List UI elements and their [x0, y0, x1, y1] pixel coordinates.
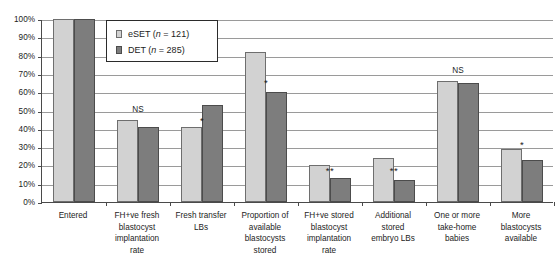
y-tick-label: 0%	[0, 199, 35, 207]
gridline	[42, 75, 553, 76]
x-tick-mark	[362, 202, 363, 206]
legend-item: DET (n = 285)	[116, 42, 217, 58]
x-label-line: More	[484, 210, 558, 222]
y-tick-mark	[38, 203, 42, 204]
y-tick-label: 80%	[0, 52, 35, 60]
x-category-label: Additionalstoredembryo LBs	[356, 210, 430, 245]
y-tick-mark	[38, 112, 42, 113]
bar-eset	[245, 52, 266, 202]
x-label-line: take-home	[420, 222, 494, 234]
x-label-line: implantation	[292, 233, 366, 245]
x-label-line: Proportion of	[228, 210, 302, 222]
bar-det	[74, 19, 95, 202]
x-label-line: Fresh transfer	[164, 210, 238, 222]
x-tick-mark	[170, 202, 171, 206]
x-label-line: blastocyst	[100, 222, 174, 234]
x-category-label: One or moretake-homebabies	[420, 210, 494, 245]
y-tick-mark	[38, 130, 42, 131]
x-tick-mark	[234, 202, 235, 206]
bar-det	[330, 178, 351, 202]
bar-det	[394, 180, 415, 202]
y-tick-label: 70%	[0, 71, 35, 79]
bar-eset	[117, 120, 138, 202]
y-tick-label: 40%	[0, 126, 35, 134]
x-label-line: blastocysts	[228, 233, 302, 245]
y-tick-mark	[38, 38, 42, 39]
y-tick-label: 60%	[0, 89, 35, 97]
y-tick-mark	[38, 57, 42, 58]
x-label-line: implantation	[100, 233, 174, 245]
y-tick-label: 50%	[0, 107, 35, 115]
x-label-line: rate	[100, 245, 174, 257]
y-tick-label: 90%	[0, 34, 35, 42]
y-tick-mark	[38, 20, 42, 21]
significance-annotation: NS	[132, 106, 143, 114]
x-category-label: Fresh transferLBs	[164, 210, 238, 233]
x-tick-mark	[490, 202, 491, 206]
bar-eset	[181, 127, 202, 202]
x-label-line: babies	[420, 233, 494, 245]
x-label-line: FH+ve stored	[292, 210, 366, 222]
x-label-line: Additional	[356, 210, 430, 222]
y-tick-label: 30%	[0, 144, 35, 152]
y-tick-label: 20%	[0, 162, 35, 170]
legend-swatch-eset	[116, 30, 122, 38]
bar-det	[266, 92, 287, 202]
chart-legend: eSET (n = 121)DET (n = 285)	[106, 20, 218, 62]
bar-det	[458, 83, 479, 202]
significance-annotation: **	[326, 166, 334, 176]
bar-chart: NS******NS* 100%90%80%70%60%50%40%30%20%…	[0, 0, 558, 270]
x-label-line: stored	[228, 245, 302, 257]
x-label-line: embryo LBs	[356, 233, 430, 245]
x-label-line: One or more	[420, 210, 494, 222]
bar-det	[138, 127, 159, 202]
y-tick-mark	[38, 148, 42, 149]
significance-annotation: NS	[452, 67, 463, 75]
bar-det	[522, 160, 543, 202]
significance-annotation: **	[390, 166, 398, 176]
x-category-label: FH+ve storedblastocystimplantationrate	[292, 210, 366, 256]
x-label-line: available	[484, 233, 558, 245]
y-tick-mark	[38, 185, 42, 186]
x-tick-mark	[106, 202, 107, 206]
significance-annotation: *	[200, 116, 204, 126]
x-category-label: Entered	[36, 210, 110, 222]
x-tick-mark	[426, 202, 427, 206]
x-label-line: blastocyst	[292, 222, 366, 234]
x-label-line: stored	[356, 222, 430, 234]
x-label-line: FH+ve fresh	[100, 210, 174, 222]
significance-annotation: *	[520, 140, 524, 150]
x-category-label: Proportion ofavailableblastocystsstored	[228, 210, 302, 256]
legend-label: DET (n = 285)	[128, 46, 185, 55]
bar-det	[202, 105, 223, 202]
x-category-label: Moreblastocystsavailable	[484, 210, 558, 245]
legend-swatch-det	[116, 46, 122, 54]
x-label-line: available	[228, 222, 302, 234]
legend-item: eSET (n = 121)	[116, 26, 217, 42]
y-tick-mark	[38, 75, 42, 76]
y-tick-mark	[38, 93, 42, 94]
y-tick-label: 100%	[0, 16, 35, 24]
x-label-line: rate	[292, 245, 366, 257]
significance-annotation: *	[264, 78, 268, 88]
y-tick-label: 10%	[0, 181, 35, 189]
x-label-line: LBs	[164, 222, 238, 234]
bar-eset	[501, 149, 522, 202]
x-label-line: blastocysts	[484, 222, 558, 234]
bar-eset	[53, 19, 74, 202]
x-category-label: FH+ve freshblastocystimplantationrate	[100, 210, 174, 256]
bar-eset	[437, 81, 458, 202]
x-tick-mark	[298, 202, 299, 206]
x-label-line: Entered	[36, 210, 110, 222]
legend-label: eSET (n = 121)	[128, 30, 189, 39]
y-tick-mark	[38, 166, 42, 167]
x-tick-mark	[554, 202, 555, 206]
